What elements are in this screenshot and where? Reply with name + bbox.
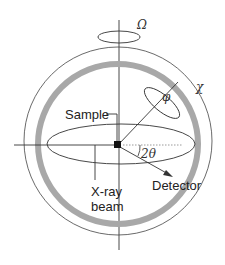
xray-label-line1: X-ray (91, 184, 123, 199)
two-theta-arc (138, 145, 140, 156)
sample-marker (114, 141, 121, 148)
detector-label: Detector (152, 178, 202, 193)
omega-label: Ω (136, 18, 147, 32)
arrowhead-icon (163, 170, 173, 177)
diffractometer-diagram: Ω χ φ 2θ Sample X-ray beam Detector (0, 0, 225, 265)
two-theta-label: 2θ (140, 147, 157, 161)
sample-label: Sample (65, 107, 109, 122)
chi-label: χ (195, 80, 204, 94)
xray-label-line2: beam (91, 199, 124, 214)
phi-label: φ (162, 90, 171, 104)
